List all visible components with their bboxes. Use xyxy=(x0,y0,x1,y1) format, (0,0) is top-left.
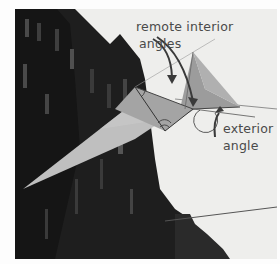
label-angle: angle xyxy=(223,138,259,153)
label-exterior: exterior xyxy=(223,121,273,136)
kite-photo: remote interior angles exterior angle xyxy=(15,9,277,259)
label-angles: angles xyxy=(139,36,181,51)
label-remote-interior: remote interior xyxy=(136,19,233,34)
